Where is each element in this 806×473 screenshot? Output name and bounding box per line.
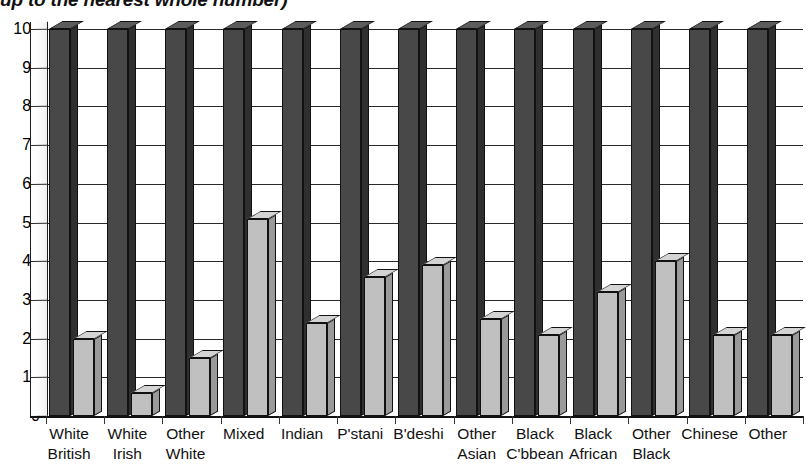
- bar-front-face: [165, 29, 186, 416]
- x-axis-category-label: Other: [739, 424, 797, 444]
- bar-series2[interactable]: [597, 292, 618, 416]
- bar-front-face: [456, 29, 477, 416]
- bar-group: [165, 29, 210, 416]
- x-axis-label-line: White: [98, 424, 156, 444]
- bar-top-face: [514, 21, 549, 29]
- bar-group: [398, 29, 443, 416]
- x-axis-label-line: Indian: [273, 424, 331, 444]
- bar-side-face: [94, 334, 102, 416]
- x-axis-label-line: Other: [448, 424, 506, 444]
- bar-front-face: [189, 358, 210, 416]
- x-axis-label-line: Chinese: [681, 424, 739, 444]
- bar-group: [573, 29, 618, 416]
- x-axis-label-line: P'stani: [331, 424, 389, 444]
- bar-top-face: [747, 21, 782, 29]
- bar-top-face: [655, 253, 690, 261]
- bar-top-face: [49, 21, 84, 29]
- x-axis-label-line: Other: [622, 424, 680, 444]
- bar-group: [223, 29, 268, 416]
- bar-front-face: [689, 29, 710, 416]
- bar-series1[interactable]: [631, 29, 652, 416]
- bar-series1[interactable]: [456, 29, 477, 416]
- bar-series2[interactable]: [364, 277, 385, 416]
- bar-front-face: [131, 393, 152, 416]
- bar-series1[interactable]: [223, 29, 244, 416]
- bar-series1[interactable]: [398, 29, 419, 416]
- bar-group: [689, 29, 734, 416]
- bar-top-face: [689, 21, 724, 29]
- x-axis-tick-mark: [803, 416, 804, 424]
- bar-front-face: [573, 29, 594, 416]
- bar-side-face: [501, 315, 509, 416]
- x-axis-tick-mark: [221, 416, 222, 424]
- bar-front-face: [306, 323, 327, 416]
- bar-series2[interactable]: [480, 319, 501, 416]
- wall-gridline: [31, 377, 47, 378]
- bar-series2[interactable]: [131, 393, 152, 416]
- bar-series2[interactable]: [189, 358, 210, 416]
- bar-series1[interactable]: [340, 29, 361, 416]
- bar-series2[interactable]: [713, 335, 734, 416]
- bar-top-face: [282, 21, 317, 29]
- bar-series1[interactable]: [165, 29, 186, 416]
- x-axis-label-line: British: [40, 444, 98, 464]
- bar-front-face: [398, 29, 419, 416]
- bar-series1[interactable]: [689, 29, 710, 416]
- bar-side-face: [792, 330, 800, 416]
- x-axis-tick-mark: [687, 416, 688, 424]
- bar-series2[interactable]: [538, 335, 559, 416]
- bar-top-face: [165, 21, 200, 29]
- bar-side-face: [268, 214, 276, 416]
- bar-side-face: [128, 24, 136, 416]
- bar-series1[interactable]: [107, 29, 128, 416]
- bar-series2[interactable]: [73, 339, 94, 416]
- wall-gridline: [31, 261, 47, 262]
- bar-series2[interactable]: [422, 265, 443, 416]
- wall-gridline: [31, 67, 47, 68]
- bar-top-face: [713, 327, 748, 335]
- wall-gridline: [31, 222, 47, 223]
- x-axis-label-line: Mixed: [215, 424, 273, 444]
- wall-gridline: [31, 184, 47, 185]
- bar-series2[interactable]: [655, 261, 676, 416]
- bar-top-face: [771, 327, 806, 335]
- x-axis-category-label: BlackAfrican: [564, 424, 622, 464]
- x-axis-tick-mark: [628, 416, 629, 424]
- wall-gridline: [31, 145, 47, 146]
- bar-side-face: [734, 330, 742, 416]
- bar-series1[interactable]: [49, 29, 70, 416]
- x-axis-label-line: C'bbean: [506, 444, 564, 464]
- x-axis-tick-mark: [512, 416, 513, 424]
- bar-front-face: [422, 265, 443, 416]
- bar-series1[interactable]: [747, 29, 768, 416]
- bar-series1[interactable]: [282, 29, 303, 416]
- x-axis-category-label: B'deshi: [389, 424, 447, 444]
- bar-top-face: [631, 21, 666, 29]
- chart-caption: up to the nearest whole number): [0, 0, 803, 11]
- bar-series1[interactable]: [514, 29, 535, 416]
- bar-series2[interactable]: [247, 219, 268, 416]
- wall-gridline: [31, 29, 47, 30]
- bar-group: [49, 29, 94, 416]
- x-axis-label-line: Black: [622, 444, 680, 464]
- x-axis-label-line: Other: [739, 424, 797, 444]
- bar-series1[interactable]: [573, 29, 594, 416]
- x-axis-category-label: OtherWhite: [156, 424, 214, 464]
- bar-front-face: [538, 335, 559, 416]
- x-axis-category-label: WhiteBritish: [40, 424, 98, 464]
- bar-front-face: [747, 29, 768, 416]
- bar-group: [514, 29, 559, 416]
- bar-side-face: [676, 257, 684, 416]
- x-axis-category-label: OtherBlack: [622, 424, 680, 464]
- bar-front-face: [631, 29, 652, 416]
- x-axis-label-line: Black: [506, 424, 564, 444]
- x-axis-label-line: Irish: [98, 444, 156, 464]
- bar-series2[interactable]: [306, 323, 327, 416]
- x-axis-category-label: Indian: [273, 424, 331, 444]
- bar-side-face: [385, 272, 393, 416]
- x-axis-label-line: African: [564, 444, 622, 464]
- bar-top-face: [456, 21, 491, 29]
- bar-series2[interactable]: [771, 335, 792, 416]
- wall-gridline: [31, 338, 47, 339]
